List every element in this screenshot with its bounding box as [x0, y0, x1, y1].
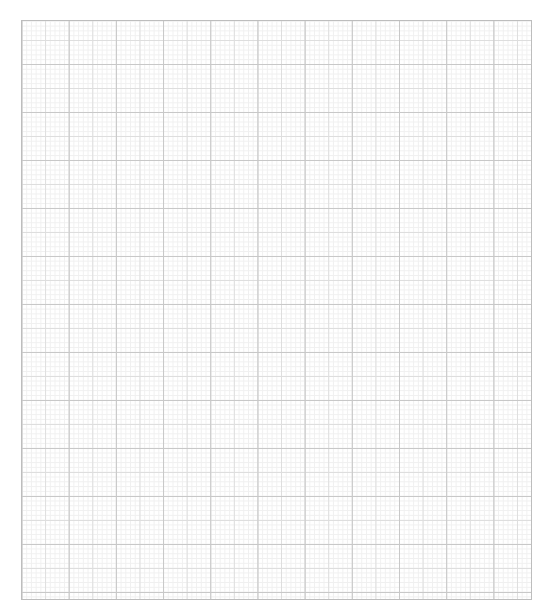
- page: [0, 0, 550, 616]
- graph-paper-grid: [21, 20, 532, 600]
